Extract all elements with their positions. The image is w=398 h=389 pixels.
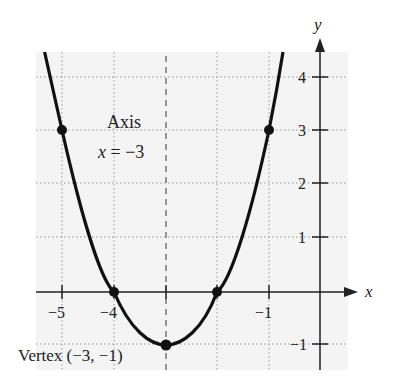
axis-annotation-equation: x = −3	[97, 142, 144, 162]
y-tick-label-2: 2	[298, 175, 306, 192]
point-vertex	[161, 340, 172, 351]
x-tick-label-m4: −4	[100, 304, 117, 321]
point-m2-0	[212, 287, 222, 297]
x-tick-label-m1: −1	[255, 304, 272, 321]
y-axis-arrow-icon	[315, 38, 325, 52]
y-tick-label-4: 4	[298, 69, 306, 86]
x-axis-arrow-icon	[344, 287, 358, 297]
y-axis-label: y	[312, 15, 322, 34]
y-tick-label-3: 3	[298, 122, 306, 139]
y-tick-label-1: 1	[298, 229, 306, 246]
vertex-annotation: Vertex (−3, −1)	[18, 346, 123, 365]
point-m4-0	[109, 287, 119, 297]
axis-annotation-word: Axis	[107, 112, 141, 132]
point-m5-3	[57, 125, 67, 135]
x-tick-label-m5: −5	[48, 304, 65, 321]
y-tick-label-m1: −1	[290, 336, 307, 353]
parabola-chart: x y −5 −4 −1 4 3 2 1 −1 Axis x = −3 Vert…	[0, 0, 398, 389]
x-axis-label: x	[364, 282, 373, 301]
point-m1-3	[264, 125, 274, 135]
